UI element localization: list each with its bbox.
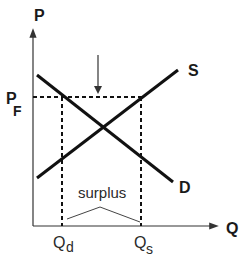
x-axis-label: Q xyxy=(226,220,238,237)
qd-label: Q xyxy=(53,234,65,251)
floor-arrowhead-icon xyxy=(94,86,102,94)
price-floor-label-sub: F xyxy=(13,103,22,119)
price-floor-diagram: P Q P F S D surplus Q d Q s xyxy=(0,0,248,259)
y-axis-label: P xyxy=(34,7,45,24)
surplus-bracket xyxy=(67,207,140,222)
qs-label: Q xyxy=(134,234,146,251)
supply-curve xyxy=(37,70,178,178)
supply-label: S xyxy=(188,62,199,79)
demand-label: D xyxy=(179,179,191,196)
qs-label-sub: s xyxy=(146,241,153,257)
surplus-label: surplus xyxy=(78,184,126,201)
qd-label-sub: d xyxy=(66,239,74,255)
